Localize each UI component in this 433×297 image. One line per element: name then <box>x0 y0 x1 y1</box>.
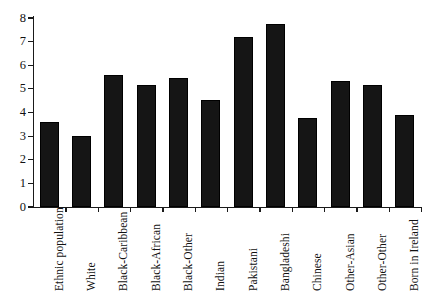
x-axis-tick <box>356 207 357 212</box>
y-axis-tick <box>28 183 34 184</box>
x-axis-category-label: Born in Ireland <box>409 219 421 291</box>
x-axis-category-label: Indian <box>215 261 227 291</box>
y-axis-tick-label: 6 <box>4 59 26 72</box>
bar <box>104 75 123 207</box>
x-axis-tick <box>292 207 293 212</box>
x-axis-tick <box>130 207 131 212</box>
y-axis-tick <box>28 206 34 207</box>
y-axis-tick <box>28 136 34 137</box>
x-axis-tick <box>162 207 163 212</box>
x-axis-category-label: White <box>86 262 98 291</box>
y-axis-tick-label: 4 <box>4 106 26 119</box>
bar <box>266 24 285 207</box>
x-axis-category-label: Black-African <box>151 224 163 291</box>
x-axis-category-label: Ethnic population <box>54 207 66 291</box>
bar <box>363 85 382 207</box>
bar <box>298 118 317 207</box>
bar-chart: 012345678 Ethnic populationWhiteBlack-Ca… <box>0 0 433 297</box>
y-axis-tick <box>28 65 34 66</box>
y-axis-tick <box>28 159 34 160</box>
x-axis-tick <box>195 207 196 212</box>
x-axis-tick <box>65 207 66 212</box>
y-axis-tick-label: 8 <box>4 12 26 25</box>
bar <box>395 115 414 207</box>
y-axis-tick-label: 1 <box>4 177 26 190</box>
y-axis-tick-label: 5 <box>4 82 26 95</box>
x-axis-tick <box>324 207 325 212</box>
bar <box>201 100 220 207</box>
y-axis-tick <box>28 88 34 89</box>
y-axis-tick-label: 3 <box>4 130 26 143</box>
x-axis-category-label: Black-Other <box>183 233 195 291</box>
y-axis-tick <box>28 41 34 42</box>
x-axis-category-label: Bangladeshi <box>280 233 292 291</box>
bar <box>72 136 91 207</box>
x-axis-tick <box>421 207 422 212</box>
x-axis-tick <box>227 207 228 212</box>
x-axis-category-label: Other-Asian <box>345 233 357 291</box>
bar <box>234 37 253 207</box>
x-axis-category-label: Black-Caribbean <box>118 212 130 291</box>
plot-area: 012345678 Ethnic populationWhiteBlack-Ca… <box>0 0 433 297</box>
x-axis-tick <box>259 207 260 212</box>
x-axis-category-label: Other-Other <box>377 234 389 291</box>
bar <box>169 78 188 207</box>
y-axis-tick-label: 7 <box>4 35 26 48</box>
x-axis-tick <box>389 207 390 212</box>
bar <box>331 81 350 207</box>
bar <box>40 122 59 207</box>
y-axis-tick-label: 0 <box>4 201 26 214</box>
bar <box>137 85 156 207</box>
x-axis-tick <box>98 207 99 212</box>
x-axis-category-label: Chinese <box>312 253 324 291</box>
x-axis-category-label: Pakistani <box>248 248 260 291</box>
y-axis-tick-label: 2 <box>4 153 26 166</box>
y-axis-tick <box>28 17 34 18</box>
y-axis-tick <box>28 112 34 113</box>
